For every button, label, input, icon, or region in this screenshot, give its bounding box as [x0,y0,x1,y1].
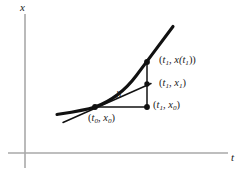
label-point-t1-x1: (t1, x1) [159,78,186,90]
euler-step-figure: x t (t1, x(t1)) (t1, x1) (t1, x0) (t0, x… [0,0,247,175]
var-x: x(t [174,54,185,65]
axis-label-t: t [231,152,234,163]
paren-close: ) [176,99,180,110]
figure-canvas [0,0,247,175]
axis-label-x: x [20,2,25,13]
label-point-t1-xt1: (t1, x(t1)) [159,55,196,67]
label-step-size: h [116,90,121,101]
point-t1-x1 [144,81,149,86]
paren-close: ) [182,77,186,88]
point-t1-x0 [144,104,150,110]
point-t1-xt1 [144,59,150,65]
label-point-t0-x0: (t0, x0) [88,113,115,125]
paren-close: )) [189,54,196,65]
paren-close: ) [111,112,115,123]
point-t0-x0 [92,104,98,110]
label-point-t1-x0: (t1, x0) [153,100,180,112]
